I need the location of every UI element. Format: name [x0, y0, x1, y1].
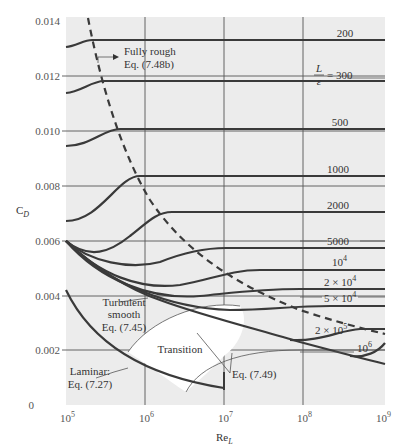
label-5e4: 5 × 104: [324, 290, 356, 304]
svg-text:0.008: 0.008: [35, 180, 60, 192]
ratio-eps: ε: [317, 75, 322, 87]
fully-rough-label: Fully rough: [124, 45, 176, 57]
svg-text:0.014: 0.014: [35, 15, 60, 27]
eq-7-49-label: Eq. (7.49): [232, 368, 277, 381]
drag-coefficient-chart: 0.014 0.012 0.010 0.008 0.006 0.004 0.00…: [0, 0, 401, 447]
svg-text:0: 0: [29, 399, 35, 411]
svg-text:0.012: 0.012: [35, 70, 60, 82]
svg-text:106: 106: [139, 410, 154, 424]
label-2e5: 2 × 105: [315, 322, 347, 336]
svg-text:107: 107: [218, 410, 233, 424]
fully-rough-eq: Eq. (7.48b): [124, 58, 174, 71]
ratio-value: = 300: [327, 69, 353, 81]
label-2e4: 2 × 104: [324, 274, 356, 288]
svg-text:108: 108: [297, 410, 312, 424]
x-axis-ticks: 105 106 107 108 109: [60, 410, 391, 424]
laminar-label: Laminar:: [70, 365, 110, 377]
turbulent-label: Turbulent: [103, 296, 146, 308]
y-axis-ticks: 0.014 0.012 0.010 0.008 0.006 0.004 0.00…: [29, 15, 61, 411]
transition-label: Transition: [158, 343, 203, 355]
label-200: 200: [337, 27, 354, 39]
ratio-L: L: [315, 62, 322, 74]
svg-text:0.010: 0.010: [35, 125, 60, 137]
svg-text:105: 105: [60, 410, 75, 424]
svg-text:0.006: 0.006: [35, 235, 60, 247]
label-5000: 5000: [327, 235, 350, 247]
svg-text:109: 109: [376, 410, 391, 424]
x-axis-label: ReL: [216, 431, 233, 446]
svg-text:0.002: 0.002: [35, 344, 60, 356]
smooth-label: smooth: [108, 308, 141, 320]
svg-text:0.004: 0.004: [35, 290, 60, 302]
label-2000: 2000: [327, 199, 350, 211]
turbulent-eq: Eq. (7.45): [102, 321, 147, 334]
label-1000: 1000: [327, 163, 350, 175]
laminar-eq: Eq. (7.27): [68, 378, 113, 391]
y-axis-label: CD: [16, 204, 29, 219]
label-500: 500: [332, 116, 349, 128]
